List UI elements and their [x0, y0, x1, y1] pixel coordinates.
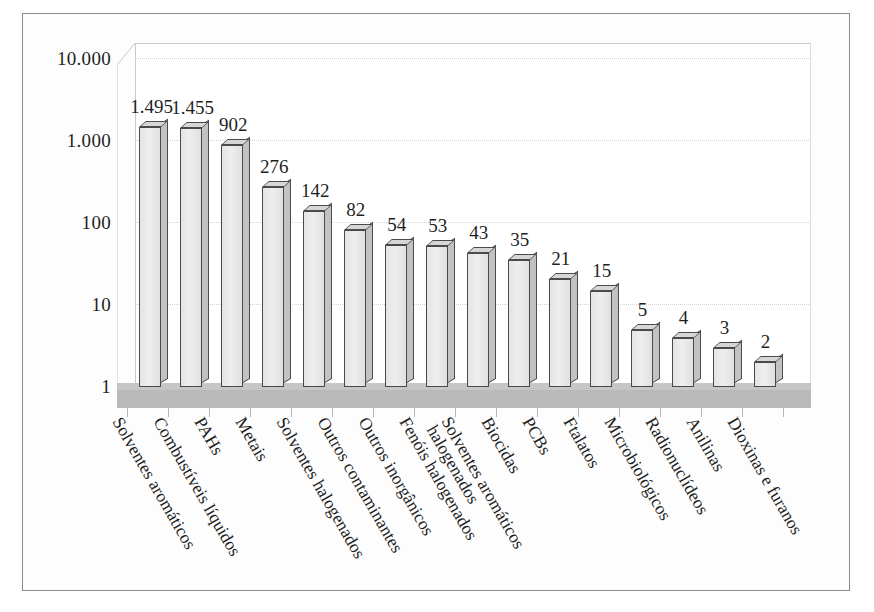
bar-front-face [344, 230, 366, 387]
bar-side-face [366, 222, 373, 383]
bar-side-face [284, 178, 291, 383]
y-axis-tick-label: 1 [29, 377, 111, 396]
bar-front-face [180, 128, 202, 387]
bar-front-face [631, 330, 653, 387]
bar-front-face [426, 246, 448, 387]
bar[interactable]: 15 [590, 261, 612, 387]
bar-value-label: 54 [387, 215, 406, 234]
bar[interactable]: 1.455 [180, 98, 202, 387]
bar-front-face [508, 260, 530, 387]
bar-value-label: 43 [469, 223, 488, 242]
bar-front-face [139, 127, 161, 387]
bar[interactable]: 54 [385, 215, 407, 387]
bars-layer: 1.4951.455902276142825453433521155432 [117, 36, 811, 408]
bar-front-face [221, 145, 243, 387]
bar-side-face [653, 321, 660, 383]
bar[interactable]: 142 [303, 181, 325, 387]
y-axis-tick-label: 10 [29, 295, 111, 314]
y-axis: 10.0001.000100101 [23, 14, 111, 414]
bar-side-face [694, 329, 701, 383]
y-axis-tick-label: 10.000 [29, 49, 111, 68]
bar-side-face [571, 270, 578, 383]
bar-front-face [754, 362, 776, 387]
bar[interactable]: 1.495 [139, 97, 161, 387]
bar-side-face [407, 237, 414, 383]
x-axis-labels: Solventes aromáticosCombustíveis líquido… [117, 414, 874, 592]
bar-front-face [262, 187, 284, 387]
figure-frame: 10.0001.000100101 1.4951.455902276142825… [22, 13, 850, 591]
bar-side-face [243, 136, 250, 383]
bar-side-face [325, 202, 332, 383]
x-axis-category-label: Anilinas [683, 414, 728, 474]
bar-front-face [467, 253, 489, 387]
x-axis-category-label: Dioxinas e furanos [724, 414, 806, 537]
x-axis-category-label: Metais [232, 414, 271, 464]
bar[interactable]: 276 [262, 157, 284, 387]
bar-value-label: 15 [592, 261, 611, 280]
bar[interactable]: 4 [672, 308, 694, 387]
x-axis-category-label: PAHs [191, 414, 227, 458]
bar[interactable]: 21 [549, 249, 571, 387]
bar-side-face [612, 282, 619, 383]
bar-front-face [590, 291, 612, 387]
bar-side-face [489, 245, 496, 383]
bar-value-label: 1.495 [130, 97, 173, 116]
bar-side-face [530, 252, 537, 383]
bar[interactable]: 35 [508, 230, 530, 387]
bar[interactable]: 53 [426, 216, 448, 387]
bar-side-face [202, 119, 209, 383]
bar-value-label: 142 [301, 181, 330, 200]
bar[interactable]: 3 [713, 318, 735, 387]
x-axis-category-label: PCBs [519, 414, 555, 458]
bar-value-label: 276 [260, 157, 289, 176]
bar-value-label: 21 [551, 249, 570, 268]
bar-value-label: 4 [679, 308, 689, 327]
bar-front-face [713, 348, 735, 387]
y-axis-tick-label: 100 [29, 213, 111, 232]
bar-chart: 10.0001.000100101 1.4951.455902276142825… [23, 14, 851, 592]
bar-value-label: 3 [720, 318, 730, 337]
bar-value-label: 902 [219, 115, 248, 134]
y-axis-tick-label: 1.000 [29, 131, 111, 150]
bar-value-label: 5 [638, 300, 648, 319]
bar-value-label: 35 [510, 230, 529, 249]
bar[interactable]: 902 [221, 115, 243, 387]
bar-value-label: 53 [428, 216, 447, 235]
bar-value-label: 2 [761, 332, 771, 351]
bar-front-face [303, 211, 325, 387]
bar-side-face [161, 118, 168, 383]
bar[interactable]: 5 [631, 300, 653, 387]
bar-side-face [448, 237, 455, 383]
bar[interactable]: 43 [467, 223, 489, 387]
x-axis-category-label: Ftalatos [560, 414, 603, 471]
bar[interactable]: 2 [754, 332, 776, 387]
bar-front-face [385, 245, 407, 387]
bar-front-face [672, 338, 694, 387]
bar-front-face [549, 279, 571, 387]
bar[interactable]: 82 [344, 200, 366, 387]
bar-value-label: 1.455 [171, 98, 214, 117]
bar-value-label: 82 [346, 200, 365, 219]
